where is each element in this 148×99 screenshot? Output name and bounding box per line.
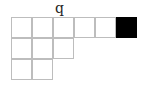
filled-cell — [116, 17, 137, 38]
grid-cell — [53, 17, 74, 38]
grid-cell — [53, 38, 74, 59]
grid-cell — [32, 17, 53, 38]
grid-cell — [32, 38, 53, 59]
grid-cell — [11, 38, 32, 59]
grid-cell — [95, 17, 116, 38]
diagram-label: q — [55, 0, 64, 16]
grid-cell — [32, 59, 53, 80]
grid-cell — [74, 17, 95, 38]
grid-cell — [11, 59, 32, 80]
grid-cell — [11, 17, 32, 38]
